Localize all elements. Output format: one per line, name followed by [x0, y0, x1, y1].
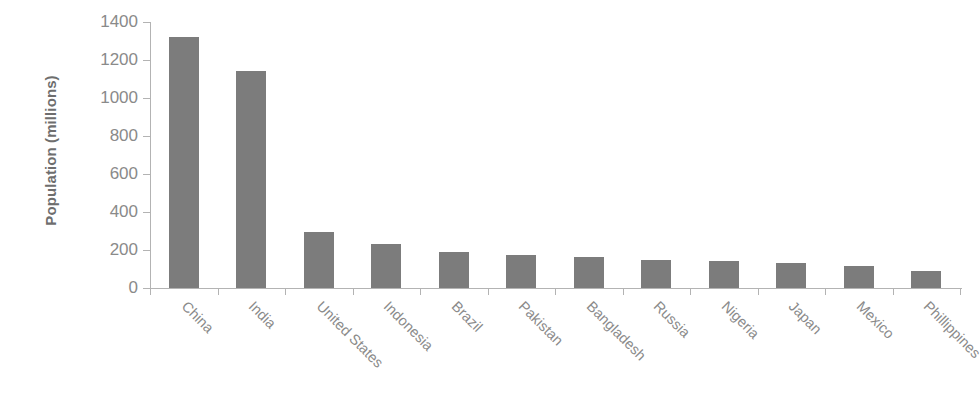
- x-axis-tick-label-text: Pakistan: [516, 298, 567, 349]
- bar[interactable]: [709, 261, 739, 288]
- y-axis-tick-mark: [143, 212, 150, 213]
- x-axis-tick-mark: [623, 288, 624, 295]
- bars-container: [150, 22, 960, 288]
- x-axis-tick-label-text: Indonesia: [381, 298, 437, 354]
- bar[interactable]: [236, 71, 266, 288]
- y-axis-tick-mark: [143, 136, 150, 137]
- y-axis-tick-label: 1000: [100, 88, 138, 108]
- x-axis-tick-mark: [488, 288, 489, 295]
- x-axis-tick-mark: [893, 288, 894, 295]
- y-axis-tick-label: 200: [110, 240, 138, 260]
- y-axis-tick-label: 0: [129, 278, 138, 298]
- x-axis-tick-label-text: Phillippines: [921, 298, 980, 361]
- y-axis-title: Population (millions): [42, 75, 59, 225]
- x-axis-tick-label-text: Russia: [651, 298, 694, 341]
- y-axis-tick-mark: [143, 288, 150, 289]
- bar[interactable]: [506, 255, 536, 288]
- bar-chart: Population (millions) 020040060080010001…: [0, 0, 980, 415]
- bar[interactable]: [776, 263, 806, 288]
- x-axis-tick-label-text: Japan: [786, 298, 825, 337]
- bar[interactable]: [641, 260, 671, 289]
- y-axis-tick-label: 1400: [100, 12, 138, 32]
- bar[interactable]: [304, 232, 334, 288]
- x-axis-tick-mark: [960, 288, 961, 295]
- x-axis-tick-mark: [353, 288, 354, 295]
- y-axis-title-container: Population (millions): [30, 0, 70, 300]
- y-axis-tick-mark: [143, 174, 150, 175]
- y-axis-tick-label: 400: [110, 202, 138, 222]
- x-axis-tick-mark: [825, 288, 826, 295]
- y-axis-tick-label: 600: [110, 164, 138, 184]
- x-axis-tick-label-text: India: [246, 298, 280, 332]
- x-axis-tick-mark: [218, 288, 219, 295]
- x-axis-tick-label-text: United States: [313, 298, 386, 371]
- bar[interactable]: [169, 37, 199, 288]
- x-axis-tick-label-text: Mexico: [853, 298, 897, 342]
- x-axis-tick-mark: [150, 288, 151, 295]
- x-axis-tick-label-text: Nigeria: [718, 298, 762, 342]
- x-axis-tick-mark: [555, 288, 556, 295]
- x-axis-tick-label-text: Brazil: [448, 298, 485, 335]
- x-axis-tick-label-text: China: [178, 298, 216, 336]
- x-axis-tick-mark: [285, 288, 286, 295]
- x-axis-tick-mark: [690, 288, 691, 295]
- bar[interactable]: [371, 244, 401, 288]
- y-axis-tick-label: 1200: [100, 50, 138, 70]
- x-axis-tick-mark: [758, 288, 759, 295]
- bar[interactable]: [911, 271, 941, 288]
- y-axis-tick-mark: [143, 22, 150, 23]
- x-axis-line: [150, 288, 962, 289]
- y-axis-tick-mark: [143, 98, 150, 99]
- y-axis-tick-label: 800: [110, 126, 138, 146]
- x-axis-tick-label-text: Bangladesh: [583, 298, 648, 363]
- x-axis-tick-mark: [420, 288, 421, 295]
- y-axis-tick-mark: [143, 250, 150, 251]
- bar[interactable]: [574, 257, 604, 288]
- bar[interactable]: [439, 252, 469, 288]
- bar[interactable]: [844, 266, 874, 288]
- y-axis-tick-mark: [143, 60, 150, 61]
